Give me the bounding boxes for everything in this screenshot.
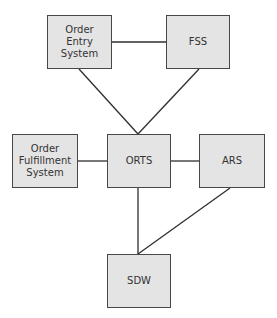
node-sdw: SDW <box>107 254 171 308</box>
node-fss: FSS <box>166 15 230 69</box>
node-ars: ARS <box>199 134 265 188</box>
node-order-entry-system: Order Entry System <box>47 15 112 69</box>
edge-ars-to-sdw <box>138 188 230 254</box>
node-order-fulfillment-system: Order Fulfillment System <box>12 134 78 188</box>
edge-order-entry-to-orts <box>79 69 138 134</box>
edge-fss-to-orts <box>138 69 199 134</box>
node-orts: ORTS <box>107 134 171 188</box>
system-diagram: Order Entry System FSS Order Fulfillment… <box>0 0 277 318</box>
